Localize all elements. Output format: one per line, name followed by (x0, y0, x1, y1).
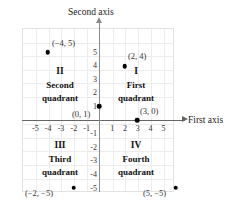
coordinate-plane-figure: Second axis First axis -5 -4 -3 -2 -1 1 … (0, 0, 242, 212)
horizontal-axis-title: First axis (188, 115, 223, 125)
x-tick-label: 5 (161, 124, 165, 133)
data-point-dot (122, 64, 127, 69)
data-point-label: (−2, −5) (25, 188, 53, 198)
quadrant-label-III: III Third quadrant (42, 139, 78, 180)
data-point-dot (97, 104, 102, 109)
data-point-label: (2, 4) (128, 51, 146, 61)
data-point-label: (−4, 5) (52, 38, 75, 48)
quadrant-name-IV-line1: Fourth (118, 152, 154, 166)
y-tick-label: -4 (90, 170, 97, 179)
quadrant-roman-II: II (42, 65, 78, 79)
x-tick-label: -5 (32, 124, 39, 133)
quadrant-name-II-line1: Second (42, 78, 78, 92)
quadrant-label-II: II Second quadrant (42, 65, 78, 106)
y-tick-label: 4 (93, 61, 97, 70)
x-tick-label: 2 (123, 124, 127, 133)
x-tick-label: -1 (83, 124, 90, 133)
x-tick-label: 4 (149, 124, 153, 133)
data-point-label: (5, −5) (143, 188, 166, 198)
quadrant-name-III-line1: Third (42, 152, 78, 166)
data-point-dot (71, 185, 76, 190)
vertical-axis-title: Second axis (68, 7, 114, 17)
quadrant-name-III-line2: quadrant (42, 166, 78, 180)
gridline-vertical (113, 29, 114, 191)
quadrant-name-IV-line2: quadrant (118, 166, 154, 180)
y-tick-label: 2 (93, 88, 97, 97)
y-tick-label: -2 (90, 142, 97, 151)
gridline-vertical (36, 29, 37, 191)
quadrant-roman-IV: IV (118, 139, 154, 153)
y-tick-label: 5 (93, 47, 97, 56)
quadrant-name-I-line2: quadrant (118, 92, 154, 106)
y-tick-label: -5 (90, 183, 97, 192)
data-point-label: (3, 0) (140, 106, 158, 116)
data-point-dot (135, 118, 140, 123)
y-tick-label: -1 (90, 129, 97, 138)
y-tick-label: 3 (93, 74, 97, 83)
quadrant-label-I: I First quadrant (118, 65, 154, 106)
gridline-vertical (164, 29, 165, 191)
gridline-horizontal (23, 56, 173, 57)
data-point-dot (46, 50, 51, 55)
quadrant-name-II-line2: quadrant (42, 92, 78, 106)
quadrant-name-I-line1: First (118, 78, 154, 92)
data-point-label: (0, 1) (72, 109, 90, 119)
x-tick-label: 1 (110, 124, 114, 133)
x-tick-label: 3 (136, 124, 140, 133)
gridline-horizontal (23, 43, 173, 44)
y-axis-arrow-icon (96, 17, 102, 23)
y-tick-label: -3 (90, 156, 97, 165)
x-axis-line (22, 120, 185, 121)
quadrant-label-IV: IV Fourth quadrant (118, 139, 154, 180)
x-tick-label: -4 (45, 124, 52, 133)
quadrant-roman-III: III (42, 139, 78, 153)
data-point-dot (173, 185, 178, 190)
x-tick-label: -3 (58, 124, 65, 133)
x-axis-arrow-icon (182, 116, 188, 122)
x-tick-label: -2 (70, 124, 77, 133)
